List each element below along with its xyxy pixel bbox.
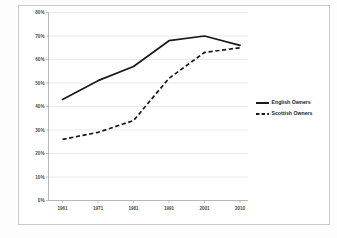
x-tick-label: 2010 (235, 206, 246, 211)
y-axis (46, 13, 49, 201)
x-tick-label: 1971 (93, 206, 104, 211)
y-tick-label: 0% (38, 198, 45, 203)
x-tick-label: 1961 (57, 206, 68, 211)
x-tick-labels: 196119711981199120012010 (57, 206, 245, 211)
data-series (63, 36, 241, 139)
y-tick-labels: 0%10%20%30%40%50%60%70%80% (35, 10, 44, 203)
y-tick-label: 40% (35, 104, 44, 109)
y-tick-label: 70% (35, 34, 44, 39)
y-tick-label: 30% (35, 128, 44, 133)
line-chart: 0%10%20%30%40%50%60%70%80% 1961197119811… (0, 0, 337, 238)
x-axis (49, 201, 249, 204)
series-line-english-owners (63, 36, 241, 99)
y-tick-label: 10% (35, 175, 44, 180)
legend-label: English Owners (272, 99, 311, 105)
series-line-scottish-owners (63, 48, 241, 140)
gridlines (49, 13, 249, 178)
x-tick-label: 2001 (199, 206, 210, 211)
y-tick-label: 60% (35, 57, 44, 62)
chart-legend: English OwnersScottish Owners (256, 99, 313, 116)
y-tick-label: 80% (35, 10, 44, 15)
y-tick-label: 20% (35, 151, 44, 156)
x-tick-label: 1981 (128, 206, 139, 211)
x-tick-label: 1991 (164, 206, 175, 211)
legend-label: Scottish Owners (272, 110, 313, 116)
y-tick-label: 50% (35, 81, 44, 86)
chart-container: 0%10%20%30%40%50%60%70%80% 1961197119811… (0, 0, 337, 238)
